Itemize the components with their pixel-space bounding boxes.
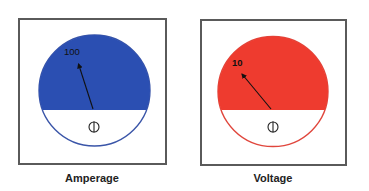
voltage-caption: Voltage [233, 172, 313, 184]
meter-faces [0, 0, 369, 191]
amperage-caption: Amperage [52, 172, 132, 184]
voltage-scale-label: 10 [232, 58, 243, 68]
amperage-scale-band [38, 34, 152, 110]
amperage-scale-label: 100 [64, 47, 80, 57]
voltage-scale-band [217, 35, 330, 110]
amperage-meter-face [38, 34, 152, 146]
voltage-meter-face [217, 35, 330, 147]
